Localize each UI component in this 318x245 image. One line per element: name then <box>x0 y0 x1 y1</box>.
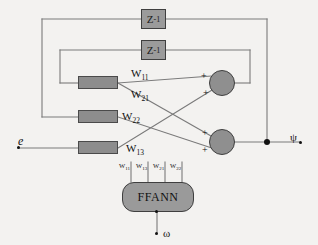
delay-top-label: Z <box>147 13 154 25</box>
output-terminal-dot <box>299 141 302 144</box>
ffann-input-1-sub: 11 <box>125 166 130 171</box>
weight-label-w21: W21 <box>131 89 149 103</box>
weight-block-1[interactable] <box>78 76 118 89</box>
weight-label-w11-sub: 11 <box>141 73 148 82</box>
delay-inner-exponent: -1 <box>154 46 161 55</box>
plus-sign-bottom-a: + <box>202 128 208 138</box>
weight-label-w11: W11 <box>131 68 149 82</box>
sum-junction-top[interactable] <box>209 70 235 96</box>
diagram-canvas: Z-1 Z-1 + + + + W11 W21 W22 W13 W11 W13 … <box>0 0 318 245</box>
ffann-input-label-1: W11 <box>119 163 130 171</box>
plus-sign-top-b: + <box>203 88 209 98</box>
ffann-input-3-sub: 21 <box>159 166 164 171</box>
delay-block-inner[interactable]: Z-1 <box>141 40 166 60</box>
omega-label: ω <box>163 228 170 239</box>
weight-label-w21-sub: 21 <box>141 94 149 103</box>
weight-label-w22-base: W <box>122 110 132 122</box>
output-junction-node <box>264 139 270 145</box>
ffann-label: FFANN <box>138 190 179 205</box>
omega-terminal-dot <box>155 232 158 235</box>
weight-label-w22-sub: 22 <box>132 116 140 125</box>
plus-sign-bottom-b: + <box>202 145 208 155</box>
ffann-block[interactable]: FFANN <box>122 182 194 212</box>
weight-label-w22: W22 <box>122 111 140 125</box>
weight-block-2[interactable] <box>78 110 118 123</box>
weight-label-w13-sub: 13 <box>136 148 144 157</box>
ffann-input-label-2: W13 <box>136 163 147 171</box>
sum-junction-bottom[interactable] <box>209 129 235 155</box>
delay-top-exponent: -1 <box>154 15 161 24</box>
ffann-input-2-sub: 13 <box>142 166 147 171</box>
weight-label-w11-base: W <box>131 67 141 79</box>
ffann-omega-connector-dot <box>155 210 158 213</box>
ffann-input-label-4: W22 <box>170 163 181 171</box>
weight-label-w13: W13 <box>126 143 144 157</box>
input-terminal-dot <box>17 146 20 149</box>
delay-block-top[interactable]: Z-1 <box>141 9 166 29</box>
delay-inner-label: Z <box>147 44 154 56</box>
ffann-input-4-sub: 22 <box>176 166 181 171</box>
ffann-input-label-3: W21 <box>153 163 164 171</box>
weight-label-w13-base: W <box>126 142 136 154</box>
weight-block-3[interactable] <box>78 141 118 154</box>
output-label-psi: ψ <box>290 132 297 143</box>
weight-label-w21-base: W <box>131 88 141 100</box>
plus-sign-top-a: + <box>201 71 207 81</box>
